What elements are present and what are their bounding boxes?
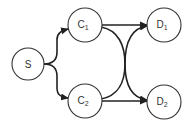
node-s-label: S — [25, 59, 32, 70]
network-diagram: S C1 C2 D1 D2 — [0, 0, 191, 127]
node-s: S — [12, 48, 44, 80]
node-c1: C1 — [68, 8, 102, 42]
edge-s-to-c2 — [44, 64, 68, 98]
node-d1: D1 — [147, 8, 181, 42]
edge-c2-to-d1 — [101, 26, 147, 99]
node-d2: D2 — [147, 85, 181, 119]
node-c2: C2 — [68, 84, 102, 118]
edge-c1-to-d2 — [101, 27, 147, 100]
edge-s-to-c1 — [44, 29, 68, 64]
